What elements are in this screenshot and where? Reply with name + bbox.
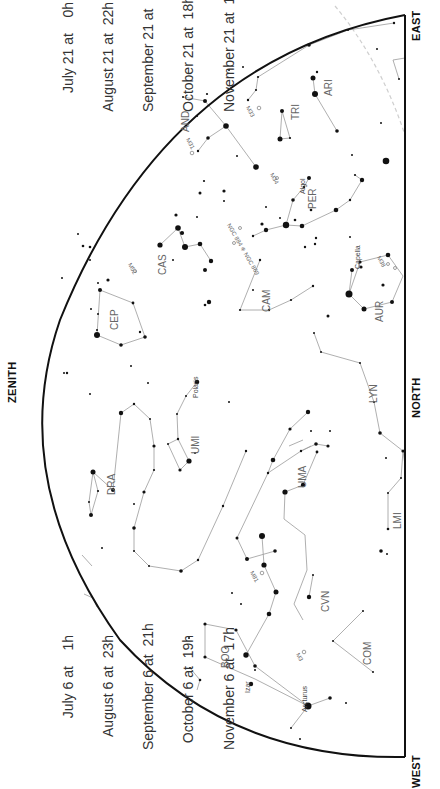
time-line: October 21 at 18h bbox=[182, 2, 195, 112]
direction-zenith: ZENITH bbox=[6, 361, 18, 403]
time-line: July 6 at 1h bbox=[62, 635, 75, 750]
time-line: October 6 at 19h bbox=[182, 635, 195, 750]
time-line: September 21 at 20h bbox=[142, 2, 155, 112]
constellation-label: UMA bbox=[297, 466, 308, 488]
star-name-label: Arcturus bbox=[301, 686, 308, 712]
time-line: September 6 at 21h bbox=[142, 635, 155, 750]
constellation-label: COM bbox=[362, 642, 373, 665]
direction-east: EAST bbox=[410, 10, 422, 41]
ecliptic-line bbox=[335, 6, 405, 135]
constellation-label: UMI bbox=[190, 436, 201, 454]
star-name-label: Algol bbox=[299, 178, 306, 194]
constellation-label: PER bbox=[307, 188, 318, 209]
constellation-label: LYN bbox=[368, 384, 379, 403]
constellation-label: CAM bbox=[261, 290, 272, 312]
constellation-lines bbox=[82, 23, 405, 728]
constellation-label: DRA bbox=[106, 474, 117, 495]
constellation-label: TRI bbox=[290, 104, 301, 120]
direction-north: NORTH bbox=[410, 377, 422, 418]
constellation-label: CEP bbox=[109, 309, 120, 330]
star-name-label: Polaris bbox=[192, 377, 199, 398]
time-line: November 21 at 16h bbox=[223, 2, 236, 112]
constellation-label: BOO bbox=[220, 646, 231, 668]
constellation-label: ARI bbox=[323, 79, 334, 96]
time-block-bottom: July 6 at 1h August 6 at 23h September 6… bbox=[35, 635, 250, 750]
constellation-label: CVN bbox=[320, 591, 331, 612]
time-line: August 21 at 22h bbox=[102, 2, 115, 112]
time-line: August 6 at 23h bbox=[102, 635, 115, 750]
star-name-label: Capella bbox=[354, 245, 361, 269]
star-name-label: Izar bbox=[244, 681, 251, 693]
constellation-label: LMI bbox=[392, 512, 403, 529]
time-line: July 21 at 0h bbox=[62, 2, 75, 112]
time-block-top: July 21 at 0h August 21 at 22h September… bbox=[35, 2, 250, 112]
constellation-label: CAS bbox=[157, 254, 168, 275]
direction-west: WEST bbox=[410, 755, 422, 788]
constellation-label: AND bbox=[180, 111, 191, 132]
constellation-label: AUR bbox=[374, 301, 385, 322]
